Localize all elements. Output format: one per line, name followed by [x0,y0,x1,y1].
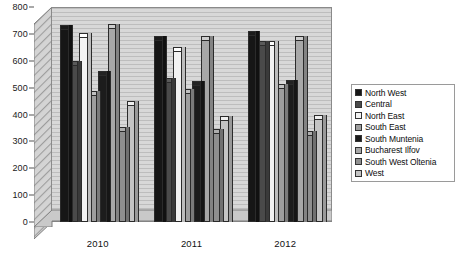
legend-item-label: Bucharest Ilfov [365,146,420,155]
bar-side-face [256,31,260,222]
bar-side-face [210,36,214,222]
legend-swatch-icon [355,135,362,142]
legend-item-label: Central [365,100,392,109]
bar-side-face [116,24,120,222]
bar-side-face [182,47,186,222]
bar-side-face [266,41,270,222]
legend-item-south-east: South East [355,122,452,134]
bars-layer [51,7,332,222]
legend-swatch-icon [355,124,362,131]
bar-north-west-2012 [248,35,257,222]
legend-swatch-icon [355,158,362,165]
bar-side-face [78,61,82,222]
bar-side-face [313,131,317,222]
bar-side-face [163,36,167,222]
x-axis-tick-label-2012: 2012 [274,238,296,249]
legend-item-south-west-oltenia: South West Oltenia [355,156,452,168]
legend-item-south-muntenia: South Muntenia [355,133,452,145]
legend-item-bucharest-ilfov: Bucharest Ilfov [355,145,452,157]
bar-side-face [97,91,101,222]
bar-side-face [88,33,92,222]
y-axis-tick-label: 400 [12,110,28,120]
legend-swatch-icon [355,101,362,108]
bar-front-face [60,29,69,222]
bar-group-2012 [238,7,332,222]
legend-item-central: Central [355,99,452,111]
y-axis-tick-label: 200 [12,163,28,173]
y-axis-tick-label: 0 [23,217,28,227]
bar-side-face [285,84,289,222]
bar-north-west-2011 [154,40,163,222]
bar-side-face [201,81,205,222]
legend-swatch-icon [355,170,362,177]
bar-side-face [220,129,224,222]
bar-side-face [107,71,111,222]
plot-area [34,7,332,237]
legend-item-label: North West [365,89,406,98]
legend-item-label: South West Oltenia [365,158,436,167]
legend-item-north-west: North West [355,87,452,99]
y-axis-tick-label: 300 [12,136,28,146]
bar-side-face [69,25,73,222]
legend-swatch-icon [355,112,362,119]
y-axis-tick-label: 800 [12,2,28,12]
bar-group-2010 [51,7,145,222]
chart-legend: North WestCentralNorth EastSouth EastSou… [351,84,455,182]
y-axis-tick-label: 700 [12,29,28,39]
y-axis-tick-label: 500 [12,83,28,93]
bar-side-face [294,80,298,222]
x-axis-tick-label-2011: 2011 [181,238,202,249]
bar-side-face [229,116,233,222]
bar-side-face [135,101,139,222]
legend-item-label: South Muntenia [365,135,423,144]
bar-side-face [172,78,176,222]
caption-strip [0,256,457,263]
bar-front-face [248,35,257,222]
bar-side-face [126,127,130,222]
legend-swatch-icon [355,89,362,96]
x-axis: 201020112012 [34,238,332,254]
legend-item-label: North East [365,112,404,121]
bar-side-face [275,41,279,222]
y-axis-tick-label: 100 [12,190,28,200]
bar-group-2011 [145,7,239,222]
legend-item-label: South East [365,123,406,132]
x-axis-tick-label-2010: 2010 [87,238,109,249]
legend-item-label: West [365,169,384,178]
legend-item-north-east: North East [355,110,452,122]
y-axis: 8007006005004003002001000 [0,0,33,248]
bar-front-face [154,40,163,222]
legend-item-west: West [355,168,452,180]
bar-side-face [191,89,195,222]
bar-side-face [304,36,308,222]
legend-swatch-icon [355,147,362,154]
column-chart-figure: 8007006005004003002001000 201020112012 N… [0,0,457,263]
bar-north-west-2010 [60,29,69,222]
bar-side-face [323,115,327,222]
y-axis-tick-label: 600 [12,56,28,66]
